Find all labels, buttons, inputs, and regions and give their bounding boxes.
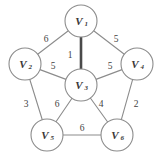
graph-canvas: 6515536426 V1V2V3V4V5V6 bbox=[0, 0, 164, 160]
node-v2: V2 bbox=[9, 48, 41, 80]
node-v3: V3 bbox=[65, 69, 97, 101]
edge-v4-v6 bbox=[121, 79, 132, 119]
edge-v1-v2 bbox=[38, 31, 69, 55]
edge-weight-v1-v3: 1 bbox=[68, 50, 73, 60]
edge-v2-v3 bbox=[40, 70, 66, 80]
node-v4: V4 bbox=[121, 48, 153, 80]
node-v1: V1 bbox=[65, 5, 97, 37]
node-v5: V5 bbox=[31, 119, 63, 151]
edge-weight-v1-v2: 6 bbox=[44, 34, 49, 44]
node-subscript-v5: 5 bbox=[51, 134, 55, 142]
edge-weight-v5-v6: 6 bbox=[80, 123, 85, 133]
edge-weight-v3-v5: 6 bbox=[55, 99, 60, 109]
weighted-graph-figure: 6515536426 V1V2V3V4V5V6 bbox=[0, 0, 164, 160]
edge-weight-v1-v4: 5 bbox=[114, 34, 119, 44]
node-subscript-v6: 6 bbox=[121, 134, 125, 142]
node-subscript-v4: 4 bbox=[140, 63, 145, 71]
node-v6: V6 bbox=[101, 119, 133, 151]
node-subscript-v1: 1 bbox=[85, 20, 89, 28]
edge-weight-v4-v6: 2 bbox=[134, 99, 139, 109]
edge-weight-v3-v4: 5 bbox=[108, 61, 113, 71]
edge-v2-v5 bbox=[30, 79, 43, 119]
edge-weight-v2-v3: 5 bbox=[51, 61, 56, 71]
node-subscript-v3: 3 bbox=[84, 84, 89, 92]
node-subscript-v2: 2 bbox=[28, 63, 33, 71]
edge-v3-v4 bbox=[96, 70, 122, 80]
edge-weight-v3-v6: 4 bbox=[99, 99, 104, 109]
edge-weight-v2-v5: 3 bbox=[24, 99, 29, 109]
edge-v1-v4 bbox=[94, 31, 125, 55]
